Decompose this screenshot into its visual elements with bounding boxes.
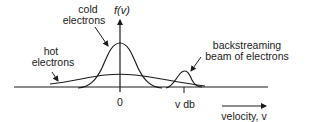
velocity-axis-label: velocity, v <box>216 111 272 122</box>
cold-electrons-label-line2: electrons <box>56 15 112 26</box>
hot-pointer <box>52 72 58 81</box>
beam-label-line2: beam of electrons <box>198 51 296 62</box>
beam-curve <box>166 71 202 88</box>
beam-velocity-label: v db <box>172 99 198 110</box>
f-axis-label: f(v) <box>110 5 134 16</box>
hot-electrons-label-line2: electrons <box>26 57 80 68</box>
hot-electrons-curve <box>50 74 205 86</box>
origin-label: 0 <box>114 97 126 108</box>
cold-pointer <box>95 27 108 46</box>
